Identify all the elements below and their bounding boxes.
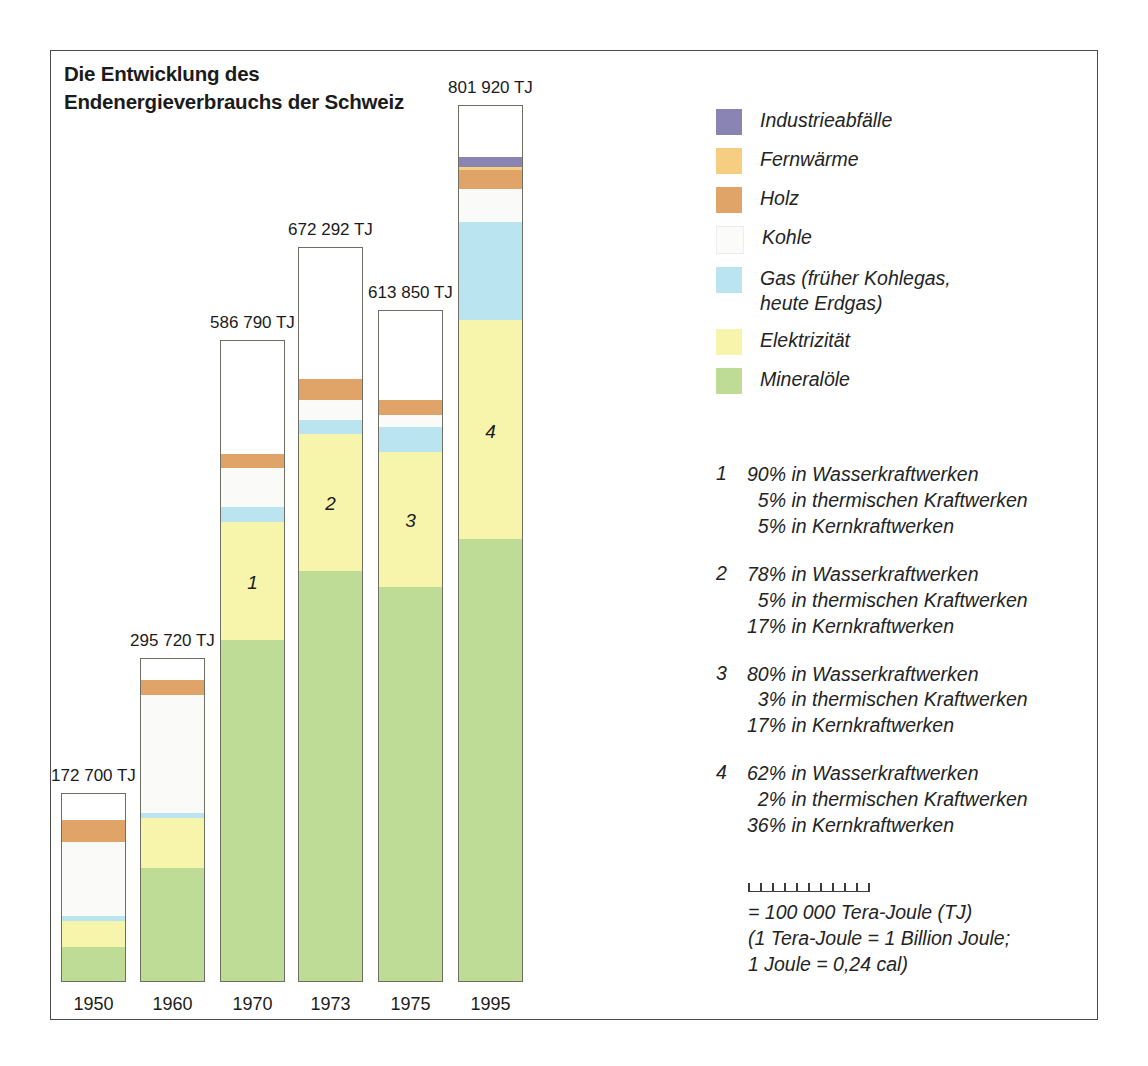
legend-swatch-holz-icon xyxy=(716,187,742,213)
bar-1973[interactable]: 2 xyxy=(298,247,363,982)
scale-tick xyxy=(772,883,774,892)
bar-marker-2: 2 xyxy=(299,493,362,515)
bar-segment-kohle xyxy=(379,415,442,427)
legend-swatch-elektrizitaet-icon xyxy=(716,329,742,355)
scale-ruler xyxy=(748,880,870,892)
legend: IndustrieabfälleFernwärmeHolzKohleGas (f… xyxy=(716,108,1076,406)
legend-item-industrieabfaelle[interactable]: Industrieabfälle xyxy=(716,108,1076,135)
scale-tick xyxy=(796,883,798,892)
footnote-lines-2: 78% in Wasserkraftwerken5% in thermische… xyxy=(742,562,1028,640)
footnote-percent: 5% xyxy=(742,588,786,614)
bar-segment-mineraloele xyxy=(62,947,125,981)
bar-segment-mineraloele xyxy=(379,587,442,981)
footnote-line: 5% in thermischen Kraftwerken xyxy=(742,488,1028,514)
footnote-percent: 36% xyxy=(742,813,786,839)
bar-segment-gas xyxy=(62,916,125,920)
legend-swatch-fernwaerme-icon xyxy=(716,148,742,174)
scale-tick xyxy=(820,883,822,892)
legend-item-elektrizitaet[interactable]: Elektrizität xyxy=(716,328,1076,355)
scale-line-2: (1 Tera-Joule = 1 Billion Joule; xyxy=(748,925,1108,951)
footnote-lines-1: 90% in Wasserkraftwerken5% in thermische… xyxy=(742,462,1028,540)
footnote-line: 62% in Wasserkraftwerken xyxy=(742,761,1028,787)
footnote-number-4: 4 xyxy=(716,761,742,839)
footnote-line: 5% in Kernkraftwerken xyxy=(742,514,1028,540)
bar-1970[interactable]: 1 xyxy=(220,340,285,982)
footnote-percent: 78% xyxy=(742,562,786,588)
footnote-4: 462% in Wasserkraftwerken2% in thermisch… xyxy=(716,761,1116,839)
scale-tick xyxy=(808,883,810,892)
footnote-line: 2% in thermischen Kraftwerken xyxy=(742,787,1028,813)
footnote-line: 80% in Wasserkraftwerken xyxy=(742,662,1028,688)
footnote-lines-3: 80% in Wasserkraftwerken3% in thermische… xyxy=(742,662,1028,740)
scale-tick xyxy=(856,883,858,892)
bar-1995[interactable]: 4 xyxy=(458,105,523,982)
bar-1960[interactable] xyxy=(140,658,205,982)
legend-label-holz: Holz xyxy=(760,186,799,211)
legend-swatch-kohle-icon xyxy=(716,226,744,254)
legend-item-mineraloele[interactable]: Mineralöle xyxy=(716,367,1076,394)
bar-segment-fernwaerme xyxy=(459,167,522,170)
footnote-number-3: 3 xyxy=(716,662,742,740)
title-line-1: Die Entwicklung des xyxy=(64,60,584,88)
footnote-line: 3% in thermischen Kraftwerken xyxy=(742,687,1028,713)
legend-item-gas[interactable]: Gas (früher Kohlegas,heute Erdgas) xyxy=(716,266,1076,316)
bar-marker-4: 4 xyxy=(459,421,522,443)
bar-segment-kohle xyxy=(141,695,204,812)
bar-segment-holz xyxy=(379,400,442,415)
bar-segment-gas xyxy=(299,420,362,434)
scale-tick xyxy=(760,883,762,892)
footnote-lines-4: 62% in Wasserkraftwerken2% in thermische… xyxy=(742,761,1028,839)
bar-1975[interactable]: 3 xyxy=(378,310,443,982)
footnote-percent: 90% xyxy=(742,462,786,488)
legend-label-industrieabfaelle: Industrieabfälle xyxy=(760,108,892,133)
scale-tick xyxy=(832,883,834,892)
bar-marker-3: 3 xyxy=(379,510,442,532)
legend-item-kohle[interactable]: Kohle xyxy=(716,225,1076,254)
footnote-number-2: 2 xyxy=(716,562,742,640)
footnote-percent: 3% xyxy=(742,687,786,713)
footnote-line: 90% in Wasserkraftwerken xyxy=(742,462,1028,488)
footnote-line: 36% in Kernkraftwerken xyxy=(742,813,1028,839)
bar-segment-elektrizitaet xyxy=(62,921,125,947)
footnote-percent: 2% xyxy=(742,787,786,813)
scale-key: = 100 000 Tera-Joule (TJ) (1 Tera-Joule … xyxy=(748,880,1108,977)
bar-marker-1: 1 xyxy=(221,572,284,594)
footnote-number-1: 1 xyxy=(716,462,742,540)
footnotes: 190% in Wasserkraftwerken5% in thermisch… xyxy=(716,462,1116,861)
legend-item-holz[interactable]: Holz xyxy=(716,186,1076,213)
footnote-percent: 17% xyxy=(742,713,786,739)
bar-segment-mineraloele xyxy=(141,868,204,981)
legend-swatch-gas-icon xyxy=(716,267,742,293)
footnote-percent: 80% xyxy=(742,662,786,688)
scale-tick xyxy=(868,883,870,892)
footnote-percent: 5% xyxy=(742,488,786,514)
legend-label-gas-line2: heute Erdgas) xyxy=(760,291,951,316)
legend-item-fernwaerme[interactable]: Fernwärme xyxy=(716,147,1076,174)
legend-swatch-mineraloele-icon xyxy=(716,368,742,394)
bar-segment-mineraloele xyxy=(459,539,522,981)
legend-label-gas: Gas (früher Kohlegas,heute Erdgas) xyxy=(760,266,951,316)
scale-tick xyxy=(844,883,846,892)
bar-segment-gas xyxy=(379,427,442,451)
bar-segment-industrieabfaelle xyxy=(459,157,522,167)
footnote-2: 278% in Wasserkraftwerken5% in thermisch… xyxy=(716,562,1116,640)
scale-line-3: 1 Joule = 0,24 cal) xyxy=(748,951,1108,977)
bar-segment-kohle xyxy=(299,400,362,420)
footnote-3: 380% in Wasserkraftwerken3% in thermisch… xyxy=(716,662,1116,740)
legend-label-elektrizitaet: Elektrizität xyxy=(760,328,850,353)
footnote-percent: 62% xyxy=(742,761,786,787)
bar-segment-gas xyxy=(141,813,204,818)
footnote-line: 17% in Kernkraftwerken xyxy=(742,713,1028,739)
bar-segment-gas xyxy=(221,507,284,521)
bar-1950[interactable] xyxy=(61,793,126,982)
legend-label-mineraloele: Mineralöle xyxy=(760,367,850,392)
footnote-1: 190% in Wasserkraftwerken5% in thermisch… xyxy=(716,462,1116,540)
bar-segment-elektrizitaet xyxy=(141,818,204,868)
legend-swatch-industrieabfaelle-icon xyxy=(716,109,742,135)
footnote-line: 5% in thermischen Kraftwerken xyxy=(742,588,1028,614)
scale-line-1: = 100 000 Tera-Joule (TJ) xyxy=(748,899,1108,925)
bar-segment-gas xyxy=(459,222,522,320)
bar-segment-holz xyxy=(299,379,362,400)
scale-tick xyxy=(784,883,786,892)
footnote-line: 78% in Wasserkraftwerken xyxy=(742,562,1028,588)
